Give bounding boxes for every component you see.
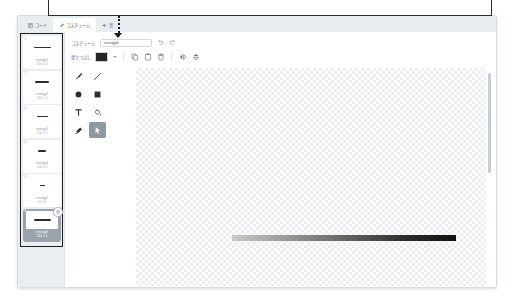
costume-number: 4 <box>25 140 27 144</box>
sound-icon <box>102 23 107 28</box>
annotation-callout-box <box>48 0 492 16</box>
brush-tool[interactable] <box>70 68 87 84</box>
tab-costumes[interactable]: コスチューム <box>53 18 96 32</box>
circle-tool[interactable] <box>70 86 87 102</box>
costume-name-row: コスチューム energy6 <box>71 37 490 48</box>
costume-name-input[interactable]: energy6 <box>100 39 152 47</box>
brush-icon <box>59 23 64 28</box>
canvas-scrollbar-thumb[interactable] <box>488 73 491 173</box>
costume-size: 150 x 4 <box>37 131 47 135</box>
costume-thumbnail <box>27 39 57 57</box>
copy-button[interactable] <box>130 53 139 62</box>
flip-horizontal-button[interactable] <box>178 53 187 62</box>
canvas-vertical-scrollbar[interactable] <box>488 68 491 286</box>
rect-tool[interactable] <box>89 86 106 102</box>
undo-icon[interactable] <box>157 39 164 46</box>
tab-sounds-label: 音 <box>109 22 113 28</box>
costume-list-item[interactable]: 5 energy5 50 x 4 <box>23 174 61 207</box>
chevron-down-icon[interactable] <box>113 56 117 58</box>
paste-button[interactable] <box>143 53 152 62</box>
delete-button[interactable] <box>156 53 165 62</box>
text-tool[interactable] <box>70 104 87 120</box>
annotation-arrow-head <box>114 33 122 38</box>
tool-options-row: 塗りつぶし <box>71 51 490 63</box>
tab-bar: コード コスチューム 音 <box>18 16 496 32</box>
tab-sounds[interactable]: 音 <box>96 18 119 32</box>
costume-size: 100 x 4 <box>37 165 47 169</box>
costume-name-label: コスチューム <box>71 40 95 46</box>
scratch-editor-window: コード コスチューム 音 1 <box>17 15 497 288</box>
costume-list-item[interactable]: 1 energy1 250 x 4 <box>23 36 61 69</box>
costume-list-item[interactable]: 4 energy4 100 x 4 <box>23 140 61 173</box>
tool-palette <box>70 68 106 138</box>
costume-list-item[interactable]: 2 energy2 200 x 4 <box>23 71 61 104</box>
code-icon <box>28 23 33 28</box>
costume-list-item[interactable]: 3 energy3 150 x 4 <box>23 105 61 138</box>
costume-number: 5 <box>25 175 27 179</box>
trash-icon <box>56 210 60 214</box>
delete-costume-button[interactable] <box>53 207 63 217</box>
costume-list-item-selected[interactable]: 6 energy6 250 x 4 <box>23 209 61 242</box>
tab-code[interactable]: コード <box>22 18 53 32</box>
transparency-checkerboard <box>136 68 486 286</box>
paint-canvas-area[interactable] <box>136 68 495 286</box>
line-tool[interactable] <box>89 68 106 84</box>
costume-thumbnail <box>27 108 57 126</box>
costume-list: 1 energy1 250 x 4 2 energy2 200 x 4 <box>20 33 63 247</box>
fill-color-label: 塗りつぶし <box>71 54 91 60</box>
select-tool[interactable] <box>89 122 106 138</box>
tab-costumes-label: コスチューム <box>66 22 90 28</box>
tab-code-label: コード <box>35 22 47 28</box>
costume-size: 250 x 4 <box>37 234 47 238</box>
redo-icon[interactable] <box>169 39 176 46</box>
costume-size: 50 x 4 <box>38 200 47 204</box>
costume-number: 3 <box>25 106 27 110</box>
costume-number: 2 <box>25 71 27 75</box>
costume-thumbnail <box>27 142 57 160</box>
costume-size: 250 x 4 <box>37 62 47 66</box>
costume-number: 6 <box>25 209 27 213</box>
editor-body: 1 energy1 250 x 4 2 energy2 200 x 4 <box>18 32 496 287</box>
eraser-tool[interactable] <box>70 122 87 138</box>
divider <box>171 53 172 62</box>
flip-vertical-button[interactable] <box>191 53 200 62</box>
fill-color-swatch[interactable] <box>95 52 108 62</box>
costume-thumbnail <box>27 73 57 91</box>
costume-rail: 1 energy1 250 x 4 2 energy2 200 x 4 <box>18 32 65 287</box>
canvas-artwork-gradient-bar[interactable] <box>232 235 456 241</box>
costume-number: 1 <box>25 37 27 41</box>
paint-editor: コスチューム energy6 塗りつぶし <box>65 32 496 287</box>
costume-thumbnail <box>27 177 57 195</box>
fill-tool[interactable] <box>89 104 106 120</box>
divider <box>123 53 124 62</box>
costume-size: 200 x 4 <box>37 96 47 100</box>
